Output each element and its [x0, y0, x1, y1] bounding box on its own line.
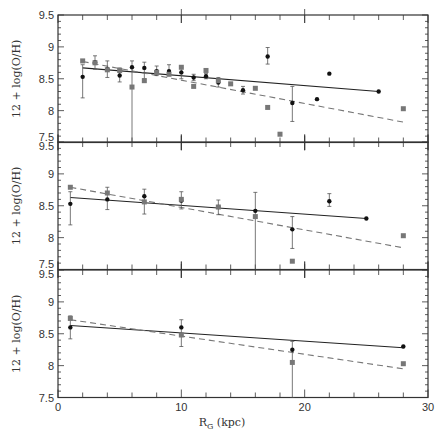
- y-tick-label: 9.5: [39, 9, 54, 21]
- square-marker: [253, 214, 258, 219]
- panel-top: 9.598.587.5: [39, 9, 428, 151]
- plot-frame: [58, 15, 428, 143]
- circle-marker: [401, 344, 405, 348]
- circle-marker: [241, 88, 245, 92]
- x-tick-label: 30: [422, 401, 434, 413]
- square-marker: [80, 58, 85, 63]
- circle-marker: [327, 199, 331, 203]
- square-marker: [68, 185, 73, 190]
- y-tick-label: 8: [48, 232, 54, 244]
- circle-marker: [290, 227, 294, 231]
- circle-marker: [204, 74, 208, 78]
- square-marker: [179, 65, 184, 70]
- circle-marker: [130, 65, 134, 69]
- square-marker: [216, 78, 221, 83]
- square-marker: [105, 191, 110, 196]
- circle-marker: [290, 347, 294, 351]
- square-marker: [228, 81, 233, 86]
- circle-marker: [105, 197, 109, 201]
- y-tick-label: 9.5: [39, 140, 54, 152]
- y-tick-label: 8: [48, 360, 54, 372]
- circle-marker: [142, 66, 146, 70]
- square-marker: [401, 361, 406, 366]
- y-axis-title: 12 + log(O/H): [10, 167, 23, 245]
- square-marker: [154, 70, 159, 75]
- square-marker: [265, 105, 270, 110]
- y-axis-titles: 12 + log(O/H)12 + log(O/H)12 + log(O/H): [10, 40, 23, 373]
- square-marker: [167, 72, 172, 77]
- y-tick-label: 9.5: [39, 268, 54, 280]
- circle-marker: [117, 73, 121, 77]
- panel-bottom: 9.598.587.5: [39, 264, 428, 404]
- y-tick-label: 9: [48, 41, 54, 53]
- x-tick-label: 0: [55, 401, 61, 413]
- square-marker: [253, 86, 258, 91]
- square-marker: [401, 106, 406, 111]
- circle-marker: [80, 75, 84, 79]
- y-tick-label: 8.5: [39, 328, 54, 340]
- plot-frame: [58, 142, 428, 270]
- square-marker: [142, 78, 147, 83]
- circle-marker: [179, 325, 183, 329]
- panels: 9.598.587.59.598.587.59.598.587.5: [39, 9, 428, 404]
- circle-marker: [327, 71, 331, 75]
- x-tick-label: 20: [299, 401, 311, 413]
- x-tick-label: 10: [175, 401, 187, 413]
- square-marker: [179, 197, 184, 202]
- y-tick-label: 7.5: [39, 392, 54, 404]
- square-marker: [191, 84, 196, 89]
- circle-marker: [315, 97, 319, 101]
- solid-fit-line: [83, 68, 379, 92]
- square-marker: [105, 67, 110, 72]
- y-tick-label: 8.5: [39, 200, 54, 212]
- square-marker: [290, 360, 295, 365]
- x-axis-title: RG (kpc): [199, 416, 246, 431]
- y-axis-title: 12 + log(O/H): [10, 40, 23, 118]
- square-marker: [142, 199, 147, 204]
- circle-marker: [265, 54, 269, 58]
- square-marker: [68, 316, 73, 321]
- circle-marker: [253, 209, 257, 213]
- circle-marker: [364, 216, 368, 220]
- square-marker: [278, 132, 283, 137]
- solid-fit-line: [70, 325, 403, 347]
- square-marker: [117, 68, 122, 73]
- circle-marker: [142, 194, 146, 198]
- y-axis-title: 12 + log(O/H): [10, 295, 23, 373]
- y-tick-label: 8.5: [39, 73, 54, 85]
- circle-marker: [191, 75, 195, 79]
- circle-marker: [68, 202, 72, 206]
- square-marker: [401, 233, 406, 238]
- abundance-gradient-figure: 9.598.587.59.598.587.59.598.587.5 12 + l…: [0, 0, 439, 436]
- square-marker: [130, 85, 135, 90]
- square-marker: [290, 259, 295, 264]
- circle-marker: [179, 70, 183, 74]
- x-axis: 0102030: [55, 401, 434, 413]
- y-tick-label: 9: [48, 296, 54, 308]
- circle-marker: [290, 101, 294, 105]
- square-marker: [93, 60, 98, 65]
- panel-middle: 9.598.587.5: [39, 136, 428, 278]
- square-marker: [216, 205, 221, 210]
- square-marker: [179, 333, 184, 338]
- circle-marker: [376, 89, 380, 93]
- y-tick-label: 9: [48, 168, 54, 180]
- plot-frame: [58, 270, 428, 398]
- circle-marker: [68, 325, 72, 329]
- y-tick-label: 8: [48, 105, 54, 117]
- square-marker: [204, 68, 209, 73]
